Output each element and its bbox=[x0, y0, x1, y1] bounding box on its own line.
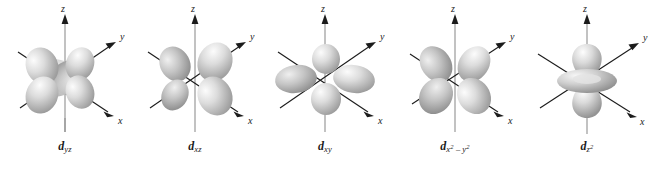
axis-x-arrow bbox=[234, 112, 245, 118]
axis-label-x: x bbox=[377, 115, 383, 126]
axis-label-z: z bbox=[190, 3, 195, 14]
axis-z-arrow bbox=[62, 14, 69, 24]
torus-highlight bbox=[573, 74, 601, 84]
orbital-diagram-d-z2: y x z bbox=[520, 0, 654, 145]
orbital-panel-d-z2: y x z dz2 bbox=[520, 0, 654, 173]
orbital-label-d-x2-y2: dx2 – y2 bbox=[390, 140, 520, 154]
axis-label-y: y bbox=[249, 31, 255, 42]
orbital-subscript: xz bbox=[194, 144, 201, 154]
axis-x-arrow bbox=[494, 112, 505, 118]
orbital-label-d-z2: dz2 bbox=[520, 140, 654, 154]
orbital-label-d-yz: dyz bbox=[0, 140, 130, 154]
orbital-diagram-d-xz: y x z bbox=[130, 0, 260, 145]
axis-label-y: y bbox=[642, 32, 648, 43]
axis-label-x: x bbox=[639, 116, 645, 127]
axis-label-z: z bbox=[60, 3, 65, 14]
axis-x-arrow bbox=[104, 112, 115, 118]
axis-label-y: y bbox=[119, 31, 125, 42]
orbital-subscript-y2: y2 bbox=[462, 144, 469, 154]
orbital-panel-d-yz: y x z dyz bbox=[0, 0, 130, 173]
orbital-lobes-d-xz bbox=[153, 37, 239, 122]
axis-label-z: z bbox=[450, 3, 455, 14]
axis-label-z: z bbox=[582, 3, 587, 14]
axis-label-x: x bbox=[247, 115, 253, 126]
orbital-label-d-xz: dxz bbox=[130, 140, 260, 154]
d-orbital-figure: y x z dyz bbox=[0, 0, 654, 173]
orbital-diagram-d-xy: y x z bbox=[260, 0, 390, 145]
axis-label-y: y bbox=[509, 31, 515, 42]
axis-z-arrow bbox=[192, 14, 199, 24]
orbital-diagram-d-x2-y2: y x z bbox=[390, 0, 520, 145]
axis-z-arrow bbox=[452, 14, 459, 24]
orbital-diagram-d-yz: y x z bbox=[0, 0, 130, 145]
axis-label-x: x bbox=[117, 115, 123, 126]
orbital-label-d-xy: dxy bbox=[260, 140, 390, 154]
axis-x-arrow bbox=[627, 112, 638, 118]
axis-x-arrow bbox=[364, 112, 375, 118]
orbital-panel-d-xy: y x z dxy bbox=[260, 0, 390, 173]
axis-label-z: z bbox=[320, 3, 325, 14]
orbital-subscript: yz bbox=[64, 144, 71, 154]
orbital-lobes-d-z2 bbox=[557, 44, 617, 118]
orbital-subscript: xy bbox=[324, 144, 332, 154]
orbital-panel-d-xz: y x z dxz bbox=[130, 0, 260, 173]
orbital-subscript-x2: x2 bbox=[446, 144, 453, 154]
orbital-subscript-z2: z2 bbox=[587, 144, 594, 154]
axis-z-arrow bbox=[322, 14, 329, 24]
axis-label-x: x bbox=[507, 115, 513, 126]
orbital-panel-d-x2-y2: y x z dx2 – y2 bbox=[390, 0, 520, 173]
axis-z-arrow bbox=[584, 14, 591, 24]
axis-label-y: y bbox=[379, 31, 385, 42]
orbital-lobes-d-yz bbox=[20, 42, 99, 118]
orbital-subscript-operator: – bbox=[454, 144, 463, 154]
